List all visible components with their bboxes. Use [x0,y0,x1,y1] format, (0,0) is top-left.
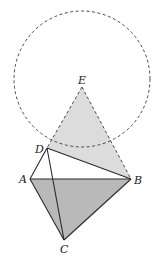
shaded-triangle-abc [30,179,131,240]
label-d: D [34,143,44,156]
label-c: C [60,243,69,256]
label-b: B [133,174,142,187]
shaded-triangle-edb [47,87,131,179]
label-e: E [77,74,86,87]
label-a: A [18,173,27,186]
geometry-diagram: E D A B C [0,0,155,259]
